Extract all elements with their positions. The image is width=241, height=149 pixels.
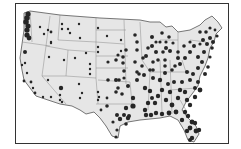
data-dot: [67, 28, 69, 30]
data-dot: [48, 56, 50, 58]
data-dot: [188, 50, 192, 54]
data-dot: [124, 48, 128, 52]
data-dot: [117, 78, 121, 82]
data-dot: [30, 81, 33, 84]
data-dot: [26, 72, 28, 74]
data-dot: [196, 80, 200, 84]
data-dot: [122, 76, 125, 79]
data-dot: [131, 96, 135, 100]
data-dot: [24, 62, 26, 64]
data-dot: [106, 35, 108, 37]
data-dot: [171, 41, 174, 44]
data-dot: [182, 44, 186, 48]
data-dot: [146, 46, 150, 50]
data-dot: [97, 46, 99, 48]
data-dot: [133, 33, 137, 37]
data-dot: [69, 32, 71, 34]
data-dot: [176, 96, 180, 100]
data-dot: [143, 108, 147, 112]
data-dot: [200, 60, 204, 64]
data-dot: [144, 54, 148, 58]
data-dot: [215, 34, 218, 37]
data-dot: [185, 70, 189, 74]
data-dot: [120, 92, 124, 96]
data-dot: [151, 76, 155, 80]
data-dot: [206, 65, 210, 69]
data-dot: [178, 62, 182, 66]
data-dot: [122, 69, 126, 73]
data-dot: [89, 68, 91, 70]
data-dot: [160, 88, 164, 92]
data-dot: [154, 111, 158, 115]
data-dot: [135, 78, 139, 82]
data-dot: [61, 28, 63, 30]
data-dot: [63, 59, 65, 61]
data-dot: [50, 41, 52, 43]
data-dot: [42, 96, 44, 98]
data-dot: [59, 94, 61, 96]
data-dot: [116, 53, 119, 56]
data-dot: [81, 92, 83, 94]
data-dot: [183, 90, 187, 94]
data-dot: [197, 128, 201, 132]
data-dot: [149, 113, 153, 117]
data-dot: [97, 99, 99, 101]
data-dot: [135, 48, 139, 52]
data-dot: [140, 64, 144, 68]
data-dot: [106, 97, 109, 100]
data-dot: [61, 101, 63, 103]
data-dot: [161, 50, 165, 54]
data-dot: [214, 29, 217, 32]
data-dot: [168, 49, 172, 53]
data-dot: [116, 86, 120, 90]
data-dot: [173, 64, 177, 68]
data-dot: [79, 97, 81, 99]
data-dot: [154, 40, 157, 43]
data-dot: [174, 110, 179, 115]
data-dot: [126, 84, 130, 88]
data-dot: [133, 60, 137, 64]
data-dot: [122, 113, 126, 117]
data-dot: [47, 29, 49, 31]
data-dot: [167, 111, 172, 116]
data-dot: [21, 64, 23, 66]
data-dot: [156, 58, 160, 62]
data-dot: [106, 78, 110, 82]
data-dot: [47, 79, 49, 81]
data-dot: [142, 73, 146, 77]
data-dot: [59, 99, 61, 101]
data-dot: [164, 98, 168, 102]
data-dot: [208, 36, 212, 40]
data-dot: [154, 50, 158, 54]
data-dot: [158, 40, 161, 43]
data-dot: [208, 55, 211, 58]
data-dot: [156, 94, 160, 98]
data-dot: [163, 71, 167, 75]
data-dot: [192, 44, 196, 48]
data-dot: [180, 118, 184, 122]
data-dot: [176, 50, 180, 54]
data-dot: [188, 103, 192, 107]
data-dot: [89, 63, 91, 65]
data-dot: [78, 83, 80, 85]
data-dot: [160, 112, 164, 116]
data-dot: [32, 87, 34, 89]
data-dot: [188, 78, 192, 82]
data-dot: [135, 40, 139, 44]
data-dot: [144, 113, 148, 117]
data-dot: [153, 101, 157, 105]
data-dot: [164, 46, 168, 50]
data-dot: [61, 23, 63, 25]
data-dot: [188, 138, 192, 142]
data-dot: [198, 42, 201, 45]
data-dot: [150, 96, 154, 100]
data-dot: [78, 23, 80, 25]
data-dot: [191, 72, 195, 76]
data-dot: [97, 91, 99, 93]
data-dot: [105, 104, 109, 108]
data-dot: [201, 38, 205, 42]
data-dot: [178, 88, 182, 92]
data-dot: [198, 30, 202, 34]
data-dot: [106, 60, 109, 63]
data-dot: [98, 96, 100, 98]
